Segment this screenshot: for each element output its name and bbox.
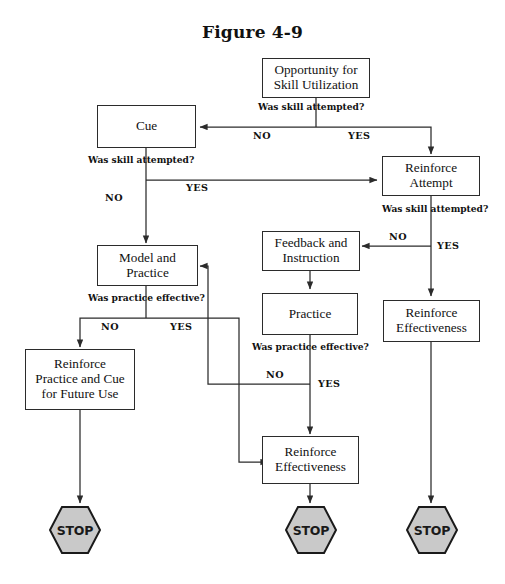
node-practice[interactable]: Practice <box>262 293 358 335</box>
node-stop-left[interactable]: STOP <box>49 505 101 555</box>
branch-label-d4-yes: YES <box>170 321 192 332</box>
edge-model-practice-to-reinforce-effectiveness-bottom <box>146 318 268 462</box>
edge-opportunity-to-reinforce-attempt <box>316 127 431 154</box>
node-reinforce-attempt-line-2: Attempt <box>405 176 457 191</box>
decision-label-2: Was skill attempted? <box>88 154 194 165</box>
node-feedback-instruction-line-1: Feedback and <box>275 236 348 251</box>
node-reinforce-attempt-line-1: Reinforce <box>405 161 457 176</box>
node-stop-right[interactable]: STOP <box>406 505 458 555</box>
branch-label-d2-yes: YES <box>186 182 208 193</box>
node-opportunity[interactable]: Opportunity for Skill Utilization <box>262 58 370 98</box>
node-opportunity-line-1: Opportunity for <box>274 63 359 78</box>
node-cue[interactable]: Cue <box>97 105 196 148</box>
stop-left-label: STOP <box>49 505 101 555</box>
decision-label-3: Was skill attempted? <box>382 203 488 214</box>
node-reinforce-effectiveness-bottom-line-1: Reinforce <box>275 445 346 460</box>
branch-label-d3-yes: YES <box>437 240 459 251</box>
node-reinforce-effectiveness-right-line-1: Reinforce <box>396 306 467 321</box>
figure-canvas: Figure 4-9 <box>0 0 505 584</box>
node-feedback-instruction[interactable]: Feedback and Instruction <box>262 231 360 271</box>
flowchart-connectors <box>0 0 505 584</box>
node-reinforce-effectiveness-right[interactable]: Reinforce Effectiveness <box>383 300 480 342</box>
branch-label-d4-no: NO <box>101 321 119 332</box>
node-model-practice-line-2: Practice <box>119 266 176 281</box>
decision-label-5: Was practice effective? <box>252 341 369 352</box>
node-reinforce-practice-cue[interactable]: Reinforce Practice and Cue for Future Us… <box>25 349 135 410</box>
branch-label-d3-no: NO <box>389 231 407 242</box>
node-model-practice-line-1: Model and <box>119 251 176 266</box>
node-model-practice[interactable]: Model and Practice <box>97 245 198 286</box>
decision-label-1: Was skill attempted? <box>258 101 364 112</box>
node-reinforce-practice-cue-line-1: Reinforce <box>35 357 124 372</box>
node-reinforce-practice-cue-line-3: for Future Use <box>35 387 124 402</box>
node-reinforce-effectiveness-bottom-line-2: Effectiveness <box>275 460 346 475</box>
branch-label-d5-no: NO <box>266 369 284 380</box>
node-reinforce-practice-cue-line-2: Practice and Cue <box>35 372 124 387</box>
node-reinforce-effectiveness-right-line-2: Effectiveness <box>396 321 467 336</box>
branch-label-d5-yes: YES <box>318 378 340 389</box>
node-reinforce-attempt[interactable]: Reinforce Attempt <box>382 156 480 196</box>
node-feedback-instruction-line-2: Instruction <box>275 251 348 266</box>
stop-right-label: STOP <box>406 505 458 555</box>
node-practice-line-1: Practice <box>289 307 331 322</box>
branch-label-d1-no: NO <box>253 130 271 141</box>
node-reinforce-effectiveness-bottom[interactable]: Reinforce Effectiveness <box>262 436 359 484</box>
node-stop-middle[interactable]: STOP <box>285 505 337 555</box>
stop-middle-label: STOP <box>285 505 337 555</box>
node-opportunity-line-2: Skill Utilization <box>274 78 359 93</box>
branch-label-d2-no: NO <box>105 192 123 203</box>
branch-label-d1-yes: YES <box>348 130 370 141</box>
decision-label-4: Was practice effective? <box>88 292 205 303</box>
node-cue-line-1: Cue <box>136 119 157 134</box>
